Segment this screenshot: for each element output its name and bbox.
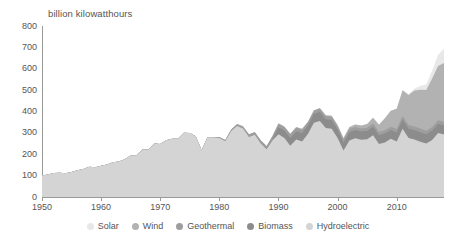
legend-item-wind[interactable]: Wind bbox=[132, 222, 164, 231]
legend-label: Hydroelectric bbox=[317, 222, 370, 231]
legend-swatch-icon bbox=[132, 223, 139, 230]
legend-item-hydroelectric[interactable]: Hydroelectric bbox=[306, 222, 370, 231]
legend-swatch-icon bbox=[87, 223, 94, 230]
chart-legend: SolarWindGeothermalBiomassHydroelectric bbox=[0, 222, 456, 231]
legend-label: Solar bbox=[98, 222, 119, 231]
renewable-energy-area-chart: billion kilowatthours 010020030040050060… bbox=[0, 0, 456, 245]
y-tick-300: 300 bbox=[0, 128, 37, 137]
x-tick-2010: 2010 bbox=[377, 203, 417, 212]
y-tick-0: 0 bbox=[0, 193, 37, 202]
legend-item-geothermal[interactable]: Geothermal bbox=[176, 222, 234, 231]
x-axis-line bbox=[42, 197, 444, 198]
y-tick-800: 800 bbox=[0, 22, 37, 31]
legend-item-solar[interactable]: Solar bbox=[87, 222, 119, 231]
x-tick-1980: 1980 bbox=[199, 203, 239, 212]
legend-swatch-icon bbox=[176, 223, 183, 230]
y-tick-500: 500 bbox=[0, 86, 37, 95]
x-tick-1960: 1960 bbox=[81, 203, 121, 212]
x-tick-1950: 1950 bbox=[22, 203, 62, 212]
y-tick-400: 400 bbox=[0, 107, 37, 116]
legend-swatch-icon bbox=[247, 223, 254, 230]
plot-area bbox=[42, 26, 444, 197]
legend-item-biomass[interactable]: Biomass bbox=[247, 222, 293, 231]
legend-label: Wind bbox=[143, 222, 164, 231]
y-tick-200: 200 bbox=[0, 150, 37, 159]
y-axis-title: billion kilowatthours bbox=[48, 8, 132, 19]
y-tick-600: 600 bbox=[0, 64, 37, 73]
x-tick-1990: 1990 bbox=[258, 203, 298, 212]
legend-swatch-icon bbox=[306, 223, 313, 230]
stacked-area-svg bbox=[42, 26, 444, 197]
x-tick-1970: 1970 bbox=[140, 203, 180, 212]
legend-label: Biomass bbox=[258, 222, 293, 231]
y-tick-700: 700 bbox=[0, 43, 37, 52]
y-tick-100: 100 bbox=[0, 171, 37, 180]
legend-label: Geothermal bbox=[187, 222, 234, 231]
x-tick-2000: 2000 bbox=[318, 203, 358, 212]
